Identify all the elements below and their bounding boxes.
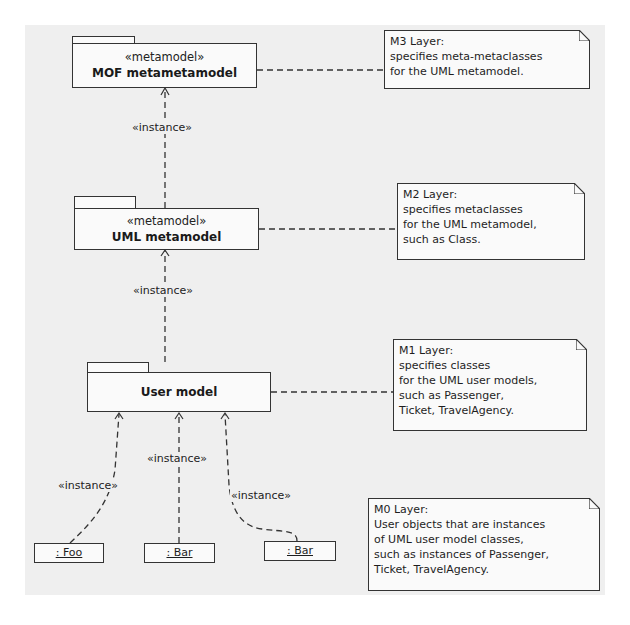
note-line: such as Passenger, (399, 388, 580, 403)
note-line: Ticket, TravelAgency. (399, 403, 580, 418)
note-line: such as instances of Passenger, (374, 547, 593, 562)
package-uml-metamodel[interactable]: «metamodel» UML metamodel (74, 208, 259, 250)
note-line: M0 Layer: (374, 502, 593, 517)
package-name: UML metamodel (112, 229, 222, 245)
note-line: such as Class. (403, 232, 578, 247)
note-line: M2 Layer: (403, 187, 578, 202)
note-fold-icon (574, 183, 585, 194)
note-m2-layer[interactable]: M2 Layer: specifies metaclasses for the … (397, 183, 585, 260)
package-name: MOF metametamodel (92, 65, 237, 81)
note-m1-layer[interactable]: M1 Layer: specifies classes for the UML … (393, 339, 587, 431)
arrowhead-uml (161, 250, 169, 256)
note-line: for the UML metamodel. (390, 64, 583, 79)
package-mof-metametamodel[interactable]: «metamodel» MOF metametamodel (72, 43, 257, 88)
edge-label-user-to-uml: «instance» (132, 284, 194, 297)
note-line: specifies meta-metaclasses (390, 49, 583, 64)
edge-label-uml-to-mof: «instance» (131, 121, 193, 134)
note-line: specifies metaclasses (403, 202, 578, 217)
note-fold-icon (589, 498, 600, 509)
object-bar-2[interactable]: : Bar (264, 541, 336, 561)
note-line: M3 Layer: (390, 34, 583, 49)
object-label: : Bar (287, 544, 313, 558)
edge-label-bar2-to-user: «instance» (230, 489, 292, 502)
package-user-model[interactable]: User model (87, 372, 271, 412)
object-label: : Foo (56, 546, 83, 560)
package-stereotype: «metamodel» (125, 50, 205, 65)
note-line: for the UML user models, (399, 373, 580, 388)
note-fold-icon (579, 30, 590, 41)
note-m0-layer[interactable]: M0 Layer: User objects that are instance… (368, 498, 600, 591)
object-label: : Bar (166, 546, 192, 560)
package-stereotype: «metamodel» (127, 214, 207, 229)
object-bar-1[interactable]: : Bar (144, 543, 215, 563)
note-line: M1 Layer: (399, 343, 580, 358)
edge-label-foo-to-user: «instance» (57, 479, 119, 492)
package-name: User model (141, 384, 218, 400)
note-line: of UML user model classes, (374, 532, 593, 547)
note-line: User objects that are instances (374, 517, 593, 532)
note-fold-icon (576, 339, 587, 350)
note-line: specifies classes (399, 358, 580, 373)
dependency-bar2-to-user (225, 414, 297, 541)
object-foo[interactable]: : Foo (34, 543, 104, 563)
note-line: for the UML metamodel, (403, 217, 578, 232)
arrowhead-user-3 (221, 413, 229, 419)
note-m3-layer[interactable]: M3 Layer: specifies meta-metaclasses for… (384, 30, 590, 89)
edge-label-bar1-to-user: «instance» (146, 452, 208, 465)
note-line: Ticket, TravelAgency. (374, 562, 593, 577)
